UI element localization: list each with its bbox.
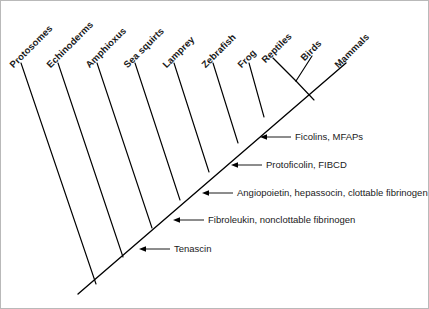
annotation-label-4: Tenascin [174, 243, 212, 254]
branch-protosomes [21, 63, 96, 284]
annotation-label-3: Fibroleukin, nonclottable fibrinogen [208, 214, 355, 225]
branch-lamprey [174, 63, 209, 172]
annotation-arrowhead-3 [173, 217, 180, 223]
annotation-arrowhead-2 [202, 190, 209, 196]
branch-zebrafish [213, 63, 238, 143]
annotation-label-0: Ficolins, MFAPs [295, 131, 363, 142]
amniote-stem [296, 81, 314, 100]
cladogram-figure: ProtosomesEchinodermsAmphioxusSea squirt… [0, 0, 429, 309]
annotation-arrowhead-4 [139, 246, 146, 252]
branch-echinoderms [58, 63, 123, 257]
annotation-label-1: Protoficolin, FIBCD [266, 159, 347, 170]
annotation-arrowhead-0 [260, 134, 267, 140]
backbone-line [78, 63, 346, 294]
branch-sea-squirts [135, 63, 180, 200]
annotation-arrowhead-1 [231, 162, 238, 168]
annotation-label-2: Angiopoietin, hepassocin, clottable fibr… [237, 187, 428, 198]
branch-reptiles [273, 58, 296, 81]
branch-frog [249, 63, 264, 117]
